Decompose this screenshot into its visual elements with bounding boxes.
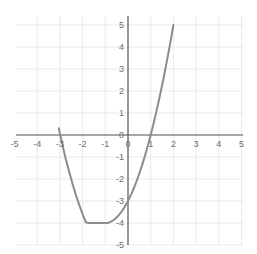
x-tick-label: 1 <box>148 140 153 149</box>
y-tick-label: 1 <box>119 109 124 118</box>
x-tick-label: 4 <box>216 140 221 149</box>
x-tick-label: 3 <box>194 140 199 149</box>
y-tick-label: 4 <box>119 43 124 52</box>
x-tick-label: 5 <box>239 140 244 149</box>
x-tick-label: -2 <box>79 140 87 149</box>
y-tick-label: -5 <box>116 241 124 250</box>
x-tick-label: -1 <box>101 140 109 149</box>
y-tick-label: 5 <box>119 21 124 30</box>
chart-container: -5-4-3-2-1012345 -5-4-3-2-1012345 <box>0 0 257 254</box>
x-tick-label: -5 <box>10 140 18 149</box>
cartesian-plot <box>0 0 257 254</box>
y-tick-label: 2 <box>119 87 124 96</box>
y-tick-label: -3 <box>116 197 124 206</box>
x-tick-label: -4 <box>33 140 41 149</box>
x-tick-label: 0 <box>125 140 130 149</box>
x-tick-label: -3 <box>56 140 64 149</box>
x-tick-label: 2 <box>171 140 176 149</box>
y-tick-label: -1 <box>116 153 124 162</box>
y-tick-label: 3 <box>119 65 124 74</box>
series-curve-layer <box>59 25 174 223</box>
y-tick-label: 0 <box>119 131 124 140</box>
y-tick-label: -4 <box>116 219 124 228</box>
series-curve-0 <box>59 25 174 223</box>
grid-lines <box>16 16 243 245</box>
y-tick-label: -2 <box>116 175 124 184</box>
